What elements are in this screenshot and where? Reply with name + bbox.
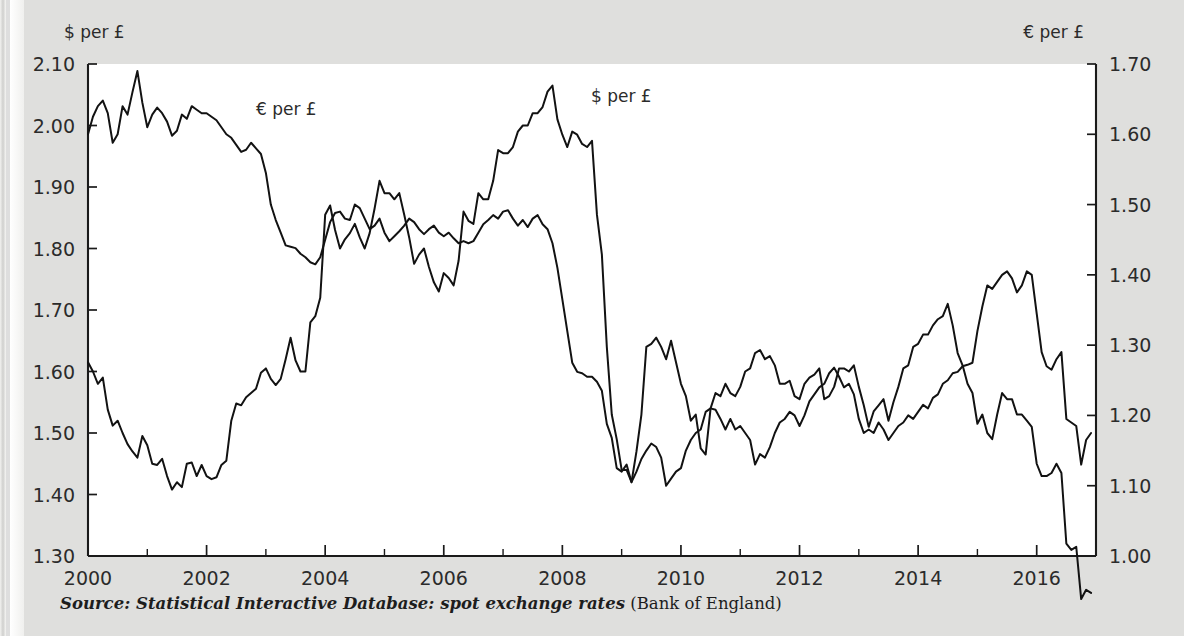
svg-text:1.50: 1.50 <box>1109 194 1151 216</box>
svg-text:2.00: 2.00 <box>33 115 75 137</box>
svg-text:1.20: 1.20 <box>1109 404 1151 426</box>
source-note: Source: Statistical Interactive Database… <box>60 594 782 613</box>
page-edge-left-inner <box>10 0 24 636</box>
svg-text:2008: 2008 <box>538 567 586 589</box>
svg-text:2012: 2012 <box>775 567 823 589</box>
svg-text:2010: 2010 <box>657 567 705 589</box>
svg-text:1.70: 1.70 <box>33 299 75 321</box>
page-edge-left-outer <box>0 0 6 636</box>
svg-text:2016: 2016 <box>1013 567 1061 589</box>
series-annotation-usd: $ per £ <box>591 86 652 106</box>
source-note-italic: Source: Statistical Interactive Database… <box>60 594 625 613</box>
svg-text:2014: 2014 <box>894 567 942 589</box>
left-axis-tick-labels: 1.301.401.501.601.701.801.902.002.10 <box>33 53 75 567</box>
svg-text:2.10: 2.10 <box>33 53 75 75</box>
svg-text:1.70: 1.70 <box>1109 53 1151 75</box>
svg-text:1.80: 1.80 <box>33 238 75 260</box>
scanned-page: 1.301.401.501.601.701.801.902.002.10 1.0… <box>0 0 1184 636</box>
svg-text:1.10: 1.10 <box>1109 475 1151 497</box>
exchange-rate-line-chart: 1.301.401.501.601.701.801.902.002.10 1.0… <box>24 0 1184 600</box>
svg-text:1.60: 1.60 <box>1109 123 1151 145</box>
figure-panel: 1.301.401.501.601.701.801.902.002.10 1.0… <box>24 0 1184 636</box>
right-axis-title: € per £ <box>1023 22 1084 42</box>
svg-text:1.30: 1.30 <box>33 545 75 567</box>
left-axis-title: $ per £ <box>64 22 125 42</box>
svg-text:1.40: 1.40 <box>33 484 75 506</box>
series-annotation-eur: € per £ <box>256 99 317 119</box>
svg-text:1.30: 1.30 <box>1109 334 1151 356</box>
svg-text:2002: 2002 <box>182 567 230 589</box>
svg-text:2000: 2000 <box>64 567 112 589</box>
svg-text:2006: 2006 <box>420 567 468 589</box>
svg-text:1.50: 1.50 <box>33 422 75 444</box>
svg-text:1.60: 1.60 <box>33 361 75 383</box>
svg-text:1.40: 1.40 <box>1109 264 1151 286</box>
svg-text:1.90: 1.90 <box>33 176 75 198</box>
svg-text:1.00: 1.00 <box>1109 545 1151 567</box>
svg-text:2004: 2004 <box>301 567 349 589</box>
right-axis-tick-labels: 1.001.101.201.301.401.501.601.70 <box>1109 53 1151 567</box>
source-note-roman: (Bank of England) <box>625 594 782 613</box>
x-axis-tick-labels: 200020022004200620082010201220142016 <box>64 567 1061 589</box>
